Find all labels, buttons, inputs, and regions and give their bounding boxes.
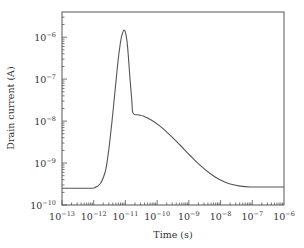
x-tick-label: 10−13 bbox=[49, 210, 75, 222]
y-tick-label: 10−7 bbox=[34, 73, 56, 85]
axis-ticks bbox=[62, 17, 283, 205]
y-tick-label: 10−10 bbox=[30, 199, 56, 211]
x-tick-label: 10−10 bbox=[144, 210, 170, 222]
x-axis-label: Time (s) bbox=[153, 229, 192, 240]
y-tick-label: 10−8 bbox=[34, 115, 56, 127]
x-tick-label: 10−7 bbox=[241, 210, 263, 222]
y-tick-labels: 10−1010−910−810−710−6 bbox=[30, 31, 56, 211]
drain-current-curve bbox=[62, 30, 284, 188]
x-tick-label: 10−8 bbox=[210, 210, 232, 222]
drain-current-chart: 10−1310−1210−1110−1010−910−810−710−6 10−… bbox=[0, 0, 304, 248]
x-tick-label: 10−11 bbox=[113, 210, 139, 222]
y-axis-label: Drain current (A) bbox=[5, 66, 16, 149]
y-tick-label: 10−6 bbox=[34, 31, 56, 43]
x-tick-label: 10−9 bbox=[178, 210, 200, 222]
x-tick-label: 10−12 bbox=[81, 210, 107, 222]
plot-frame bbox=[62, 12, 284, 205]
y-tick-label: 10−9 bbox=[34, 157, 56, 169]
x-tick-label: 10−6 bbox=[273, 210, 295, 222]
x-tick-labels: 10−1310−1210−1110−1010−910−810−710−6 bbox=[49, 210, 295, 222]
